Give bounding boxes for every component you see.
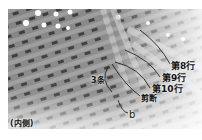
label-inside: (内侧) (10, 119, 33, 129)
label-cut: 剪断 (141, 94, 157, 104)
label-three-strands: 3条 (91, 76, 105, 86)
label-row-8: 第8行 (171, 61, 195, 71)
label-row-9: 第9行 (162, 73, 186, 83)
label-b: b (129, 110, 135, 120)
label-row-10: 第10行 (152, 84, 183, 94)
